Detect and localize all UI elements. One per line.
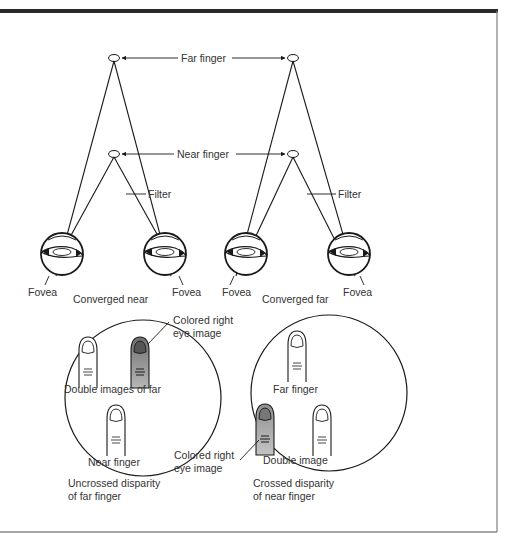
far-finger-object-right	[288, 55, 299, 62]
colored-right-eye-label: eye image	[174, 462, 223, 474]
ray-diagram: Far finger Near finger Filter Filter	[28, 52, 372, 305]
far-finger-label: Far finger	[181, 52, 226, 64]
double-image-label: Double image	[263, 454, 328, 466]
converged-far-caption: Converged far	[262, 293, 329, 305]
right-eye-icon	[328, 233, 370, 275]
fovea-label: Fovea	[28, 286, 57, 298]
finger-plain-icon	[313, 405, 331, 456]
right-eye-icon	[144, 233, 186, 275]
crossed-disparity-caption: of near finger	[253, 490, 315, 502]
crossed-disparity-caption: Crossed disparity	[253, 477, 335, 489]
near-finger-label: Near finger	[88, 456, 140, 468]
filter-label-left: Filter	[148, 188, 172, 200]
left-eye-icon	[225, 233, 267, 275]
finger-colored-icon	[256, 404, 274, 455]
converged-near-caption: Converged near	[73, 293, 149, 305]
near-finger-object-left	[109, 151, 120, 158]
far-finger-label: Far finger	[273, 383, 318, 395]
uncrossed-disparity-caption: Uncrossed disparity	[68, 477, 161, 489]
double-images-label: Double images of far	[64, 383, 161, 395]
colored-right-eye-label: Colored right	[174, 449, 234, 461]
finger-plain-icon	[79, 337, 97, 388]
finger-plain-icon	[107, 405, 125, 456]
far-finger-object-left	[109, 55, 120, 62]
colored-right-eye-label: eye image	[173, 327, 222, 339]
uncrossed-disparity-caption: of far finger	[68, 490, 122, 502]
fovea-label: Fovea	[222, 286, 251, 298]
colored-right-eye-label: Colored right	[173, 314, 233, 326]
left-eye-icon	[41, 233, 83, 275]
near-finger-object-right	[288, 151, 299, 158]
fovea-label: Fovea	[172, 286, 201, 298]
filter-label-right: Filter	[338, 188, 362, 200]
fovea-label: Fovea	[343, 286, 372, 298]
finger-colored-icon	[131, 337, 149, 388]
finger-plain-icon	[288, 331, 306, 382]
binocular-disparity-diagram: Far finger Near finger Filter Filter	[0, 0, 524, 552]
near-finger-label: Near finger	[177, 148, 229, 160]
